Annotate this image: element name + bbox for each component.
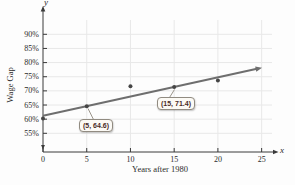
y-tick-label: 55%: [13, 129, 39, 138]
data-point: [41, 117, 45, 121]
trend-line: [43, 69, 258, 116]
x-axis-title: Years after 1980: [100, 164, 220, 174]
data-point: [172, 85, 176, 89]
y-tick-label: 60%: [13, 115, 39, 124]
y-tick-label: 65%: [13, 101, 39, 110]
y-tick-label: 70%: [13, 86, 39, 95]
point-callout-15-71-4: (15, 71.4): [157, 97, 195, 110]
callout-leader-line: [88, 109, 94, 120]
data-point: [85, 104, 89, 108]
x-axis-arrowhead: [273, 150, 279, 155]
y-tick-label: 75%: [13, 72, 39, 81]
data-point: [216, 78, 220, 82]
x-tick-label: 0: [33, 155, 53, 164]
x-tick-label: 5: [77, 155, 97, 164]
y-tick-label: 80%: [13, 58, 39, 67]
x-tick-label: 25: [252, 155, 272, 164]
x-tick-label: 20: [208, 155, 228, 164]
wage-gap-chart: y x Wage Gap Years after 1980 (5, 64.6) …: [0, 0, 295, 185]
x-tick-label: 15: [164, 155, 184, 164]
point-callout-5-64-6: (5, 64.6): [79, 119, 113, 132]
trend-line-arrowhead: [255, 66, 262, 71]
y-tick-label: 85%: [13, 44, 39, 53]
y-tick-label: 90%: [13, 30, 39, 39]
x-axis-letter: x: [280, 146, 284, 155]
x-tick-label: 10: [120, 155, 140, 164]
y-axis-letter: y: [44, 0, 48, 7]
data-point: [128, 84, 132, 88]
